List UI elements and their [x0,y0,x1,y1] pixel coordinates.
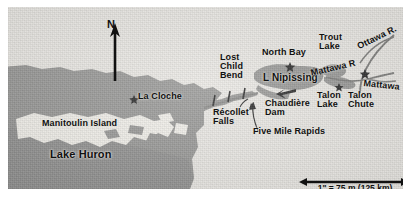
rapids-tick [228,91,230,102]
label-talon-lake: Talon Lake [317,91,341,109]
label-five-mile-rapids: Five Mile Rapids [253,127,325,136]
north-arrow-icon [104,19,126,81]
label-talon-chute: Talon Chute [348,91,374,109]
label-recollet-falls: Récollet Falls [213,108,249,126]
map-plate: N Lake Huron L Nipissing Trout Lake Talo… [8,7,403,189]
rapids-tick [213,95,215,106]
label-lake-huron: Lake Huron [50,149,112,160]
scale-label: 1" = 75 m (125 km) [299,183,403,189]
rapids-tick-marks [213,88,245,106]
north-bay-star-icon [285,62,295,72]
label-la-cloche: La Cloche [138,92,182,101]
map-annotation-layer [8,7,403,189]
label-manitoulin-island: Manitoulin Island [42,119,117,128]
recollet-falls-leader [240,99,248,107]
label-chaudiere-dam: Chaudière Dam [265,99,310,117]
rapids-tick [243,88,245,99]
five-mile-arrow-head [249,103,256,110]
map-figure: N Lake Huron L Nipissing Trout Lake Talo… [0,0,411,204]
label-trout-lake: Trout Lake [319,33,342,51]
label-lost-child-bend: Lost Child Bend [220,53,243,81]
label-north-bay: North Bay [262,48,306,57]
label-lake-nipissing: L Nipissing [263,73,318,83]
